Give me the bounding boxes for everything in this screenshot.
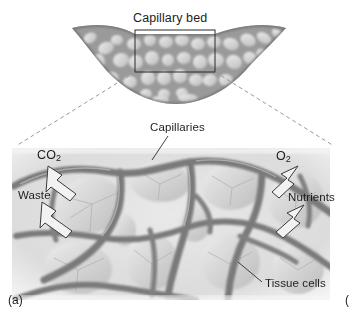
- label-co2-subscript: 2: [56, 153, 61, 163]
- overview-title: Capillary bed: [133, 12, 207, 25]
- label-o2-text: O: [276, 149, 286, 163]
- label-co2: CO2: [37, 149, 61, 163]
- panel-marker-a: (a): [8, 294, 23, 306]
- label-o2-subscript: 2: [286, 154, 291, 164]
- label-capillaries: Capillaries: [150, 122, 205, 134]
- label-waste: Waste: [18, 190, 51, 202]
- label-nutrients: Nutrients: [288, 192, 335, 204]
- label-co2-text: CO: [37, 148, 56, 162]
- projection-line-left: [16, 72, 135, 146]
- capillary-bed-figure: Capillary bed Capillaries CO2 O2 Waste N…: [0, 0, 353, 319]
- label-o2: O2: [276, 150, 291, 164]
- label-tissue-cells: Tissue cells: [265, 278, 326, 290]
- projection-line-right: [215, 72, 334, 146]
- panel-marker-b-partial: (: [345, 294, 349, 306]
